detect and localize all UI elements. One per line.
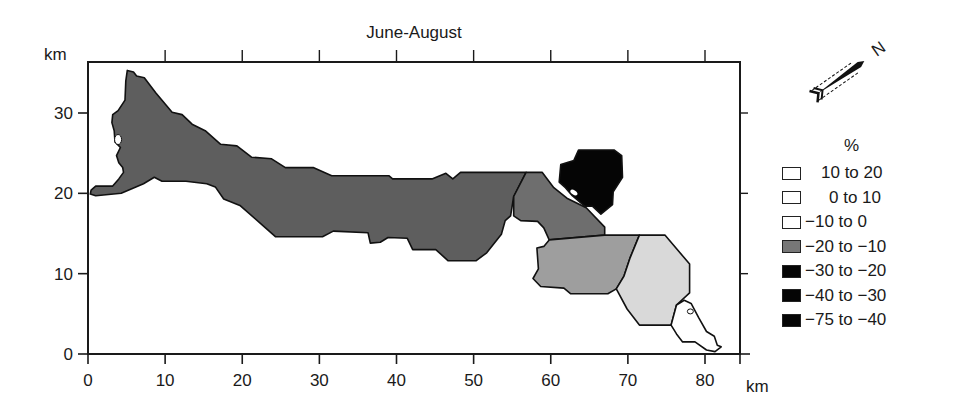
legend-swatch bbox=[782, 289, 801, 302]
y-tick-label: 0 bbox=[64, 345, 73, 364]
legend-title: % bbox=[844, 136, 859, 156]
map-regions bbox=[90, 70, 721, 351]
southeast-tip-region bbox=[671, 300, 721, 351]
y-tick-label: 30 bbox=[54, 104, 73, 123]
legend-swatch bbox=[782, 216, 801, 229]
legend-label: −75 to −40 bbox=[805, 310, 925, 330]
x-tick-label: 70 bbox=[618, 371, 637, 390]
lake-southeast bbox=[687, 309, 693, 314]
legend-item: 0 to 10 bbox=[782, 188, 949, 208]
lake-west bbox=[115, 135, 122, 145]
legend-label: 10 to 20 bbox=[821, 163, 941, 183]
legend-swatch bbox=[782, 265, 801, 278]
x-tick-label: 0 bbox=[83, 371, 92, 390]
legend-item: −40 to −30 bbox=[782, 286, 925, 306]
legend-label: −20 to −10 bbox=[805, 237, 925, 257]
legend-swatch bbox=[782, 240, 801, 253]
x-axis-label: km bbox=[746, 377, 769, 396]
x-tick-label: 50 bbox=[464, 371, 483, 390]
x-tick-label: 20 bbox=[233, 371, 252, 390]
x-tick-label: 80 bbox=[696, 371, 715, 390]
y-tick-label: 20 bbox=[54, 184, 73, 203]
legend-label: 0 to 10 bbox=[821, 188, 949, 208]
western-main-region bbox=[90, 70, 526, 260]
map-title: June-August bbox=[366, 23, 462, 42]
legend-swatch bbox=[782, 314, 801, 327]
legend-label: −30 to −20 bbox=[805, 261, 925, 281]
legend-swatch bbox=[782, 191, 801, 204]
legend-item: 10 to 20 bbox=[782, 163, 941, 183]
legend-item: −20 to −10 bbox=[782, 237, 925, 257]
x-tick-label: 60 bbox=[541, 371, 560, 390]
legend-swatch bbox=[782, 167, 801, 180]
legend-label: −40 to −30 bbox=[805, 286, 925, 306]
x-tick-label: 10 bbox=[156, 371, 175, 390]
legend-item: −30 to −20 bbox=[782, 261, 925, 281]
y-tick-label: 10 bbox=[54, 265, 73, 284]
x-tick-label: 30 bbox=[310, 371, 329, 390]
north-arrow-icon bbox=[809, 55, 868, 102]
legend-item: −10 to 0 bbox=[782, 212, 925, 232]
north-label: N bbox=[868, 38, 889, 61]
legend-item: −75 to −40 bbox=[782, 310, 925, 330]
y-axis-label: km bbox=[44, 45, 67, 64]
x-tick-label: 40 bbox=[387, 371, 406, 390]
legend-label: −10 to 0 bbox=[805, 212, 925, 232]
